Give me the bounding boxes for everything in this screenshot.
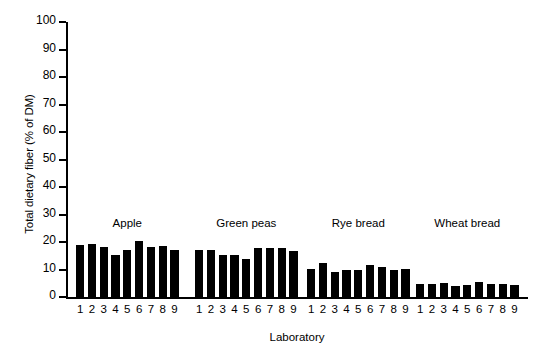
bar	[170, 250, 178, 297]
bar	[475, 282, 483, 297]
y-tick-label: 100	[24, 14, 56, 26]
group-label: Wheat bread	[407, 217, 527, 229]
y-tick-label: 40	[24, 179, 56, 191]
bar	[378, 267, 386, 297]
bar	[230, 255, 238, 297]
group-label: Rye bread	[298, 217, 418, 229]
y-tick-label: 50	[24, 152, 56, 164]
bar	[366, 265, 374, 297]
x-tick-label: 9	[505, 303, 525, 315]
bar-chart: Total dietary fiber (% of DM) 0102030405…	[0, 0, 538, 363]
group-label: Green peas	[186, 217, 306, 229]
bar	[463, 285, 471, 297]
y-tick-label: 60	[24, 124, 56, 136]
bar	[207, 250, 215, 297]
bar	[111, 255, 119, 297]
y-tick-label: 10	[24, 262, 56, 274]
x-axis-title: Laboratory	[66, 331, 528, 343]
y-axis-line	[66, 22, 68, 297]
bar	[266, 248, 274, 297]
bar	[401, 269, 409, 297]
group-label: Apple	[67, 217, 187, 229]
bar	[254, 248, 262, 298]
bar	[451, 286, 459, 297]
bar	[319, 263, 327, 297]
bar	[499, 284, 507, 297]
bar	[159, 246, 167, 297]
bar	[510, 285, 518, 297]
bar	[135, 241, 143, 297]
y-tick-mark	[59, 49, 66, 51]
y-tick-label: 80	[24, 69, 56, 81]
y-tick-mark	[59, 76, 66, 78]
bar	[278, 248, 286, 298]
bar	[219, 255, 227, 297]
x-tick-label: 9	[165, 303, 185, 315]
bar	[289, 251, 297, 297]
plot-area: 0102030405060708090100 AppleGreen peasRy…	[66, 22, 528, 297]
y-tick-label: 0	[24, 289, 56, 301]
y-tick-mark	[59, 131, 66, 133]
y-tick-label: 90	[24, 42, 56, 54]
y-tick-label: 20	[24, 234, 56, 246]
bar	[88, 244, 96, 297]
y-tick-mark	[59, 21, 66, 23]
y-tick-mark	[59, 159, 66, 161]
y-tick-label: 30	[24, 207, 56, 219]
bar	[416, 284, 424, 297]
bar	[195, 250, 203, 297]
y-tick-mark	[59, 296, 66, 298]
bar	[123, 250, 131, 297]
bar	[354, 270, 362, 297]
bar	[342, 270, 350, 297]
bar	[307, 269, 315, 297]
bar	[331, 272, 339, 297]
bar	[242, 259, 250, 298]
y-tick-mark	[59, 104, 66, 106]
y-tick-mark	[59, 214, 66, 216]
y-tick-label: 70	[24, 97, 56, 109]
bar	[440, 283, 448, 297]
x-axis-line	[66, 297, 528, 299]
bar	[390, 270, 398, 297]
bar	[76, 245, 84, 297]
bar	[147, 247, 155, 297]
bar	[487, 284, 495, 297]
y-tick-mark	[59, 269, 66, 271]
bar	[100, 247, 108, 297]
bar	[428, 284, 436, 297]
y-tick-mark	[59, 241, 66, 243]
y-tick-mark	[59, 186, 66, 188]
